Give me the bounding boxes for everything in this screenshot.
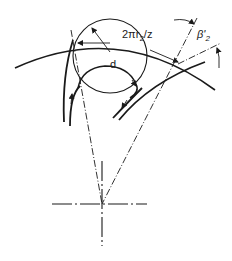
blade-angle-line (178, 43, 221, 64)
right-blade-outer (119, 62, 205, 120)
diameter-label: d (110, 58, 116, 70)
angle-label: β'2 (196, 28, 210, 43)
pitch-label: 2πr2/z (122, 28, 152, 43)
centerline-right (102, 18, 197, 204)
left-blade-inner (70, 86, 80, 126)
blade-geometry-diagram: 2πr2/z d β'2 (0, 0, 232, 261)
angle-arrow-top (174, 20, 194, 25)
pitch-arrow-right (150, 50, 178, 62)
centerline-left (71, 30, 102, 204)
angle-arrow-right (217, 48, 219, 68)
